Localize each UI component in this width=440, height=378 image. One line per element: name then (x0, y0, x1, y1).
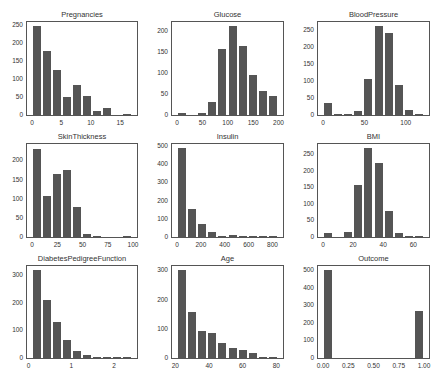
y-tick-label: 100 (1, 195, 23, 202)
histogram-bar (384, 33, 394, 115)
y-tick-label: 200 (1, 156, 23, 163)
histogram-bar (238, 350, 248, 358)
y-tick-label: 300 (146, 266, 168, 273)
histogram-bar (374, 163, 384, 237)
y-tick-label: 0 (146, 354, 168, 361)
y-tick-label: 0 (146, 111, 168, 118)
y-tick-label: 400 (292, 284, 314, 291)
y-tick-label: 100 (1, 326, 23, 333)
y-tick-label: 50 (292, 94, 314, 101)
histogram-bar (62, 170, 72, 237)
histogram-bar (72, 207, 82, 237)
histogram-bar (414, 114, 424, 115)
chart-title-glucose: Glucose (171, 10, 284, 19)
histogram-bar (394, 85, 404, 115)
histogram-bar (42, 300, 52, 358)
x-tick-label: 20 (341, 241, 365, 248)
x-tick-label: 40 (197, 362, 221, 369)
x-tick-label: 10 (79, 119, 103, 126)
x-tick-label: 200 (266, 119, 290, 126)
histogram-bar (248, 353, 258, 358)
chart-title-outcome: Outcome (317, 254, 430, 263)
plot-area-bmi (317, 143, 430, 238)
x-tick-label: 100 (121, 241, 145, 248)
x-tick-label: 100 (216, 119, 240, 126)
histogram-bar (42, 51, 52, 115)
chart-title-bmi: BMI (317, 132, 430, 141)
histogram-bar (102, 357, 112, 358)
chart-title-insulin: Insulin (171, 132, 284, 141)
x-tick-label: 0 (311, 119, 335, 126)
histogram-bar (363, 148, 373, 237)
histogram-bar (32, 149, 42, 237)
y-tick-label: 0 (1, 111, 23, 118)
histogram-bar (248, 75, 258, 115)
x-tick-label: 400 (213, 241, 237, 248)
y-tick-label: 0 (1, 354, 23, 361)
y-tick-label: 0 (1, 233, 23, 240)
histogram-bar (217, 343, 227, 358)
histogram-bar (32, 270, 42, 358)
chart-title-age: Age (171, 254, 284, 263)
histogram-bar (394, 233, 404, 237)
x-tick-label: 0 (20, 241, 44, 248)
histogram-bar (52, 70, 62, 115)
x-tick-label: 60 (401, 241, 425, 248)
histogram-bar (258, 91, 268, 115)
y-tick-label: 100 (146, 69, 168, 76)
x-tick-label: 5 (49, 119, 73, 126)
chart-title-pregnancies: Pregnancies (26, 10, 138, 19)
y-tick-label: 0 (292, 111, 314, 118)
y-tick-label: 500 (292, 266, 314, 273)
histogram-bar (323, 270, 333, 358)
plot-area-age (171, 265, 284, 359)
histogram-bar (207, 232, 217, 237)
histogram-bar (187, 209, 197, 237)
histogram-bar (384, 211, 394, 237)
histogram-bar (414, 236, 424, 237)
y-tick-label: 150 (146, 48, 168, 55)
histogram-bar (343, 114, 353, 115)
y-tick-label: 250 (292, 26, 314, 33)
y-tick-label: 200 (146, 296, 168, 303)
y-tick-label: 300 (146, 178, 168, 185)
histogram-bar (102, 108, 112, 115)
histogram-bar (228, 348, 238, 358)
x-tick-label: 80 (264, 362, 288, 369)
histogram-bar (323, 103, 333, 115)
chart-title-bloodpressure: BloodPressure (317, 10, 430, 19)
histogram-bar (177, 148, 187, 237)
y-tick-label: 200 (146, 27, 168, 34)
histogram-bar (353, 111, 363, 115)
y-tick-label: 250 (1, 21, 23, 28)
x-tick-label: 0 (165, 241, 189, 248)
x-tick-label: 1 (59, 362, 83, 369)
y-tick-label: 50 (292, 216, 314, 223)
histogram-bar (238, 236, 248, 237)
y-tick-label: 150 (292, 183, 314, 190)
histogram-bar (112, 357, 122, 358)
histogram-bar (374, 26, 384, 115)
y-tick-label: 200 (292, 167, 314, 174)
x-tick-label: 50 (190, 119, 214, 126)
histogram-bar (343, 232, 353, 237)
y-tick-label: 300 (1, 271, 23, 278)
histogram-bar (258, 236, 268, 237)
x-tick-label: 1.00 (412, 362, 436, 369)
histogram-bar (122, 114, 132, 115)
histogram-bar (217, 236, 227, 237)
x-tick-label: 15 (108, 119, 132, 126)
x-tick-label: 40 (371, 241, 395, 248)
histogram-bar (197, 113, 207, 115)
histogram-bar (92, 236, 102, 237)
y-tick-label: 500 (146, 142, 168, 149)
x-tick-label: 0.50 (362, 362, 386, 369)
histogram-bar (82, 355, 92, 358)
x-tick-label: 0 (20, 119, 44, 126)
histogram-bar (82, 234, 92, 237)
y-tick-label: 150 (1, 176, 23, 183)
y-tick-label: 400 (146, 160, 168, 167)
x-tick-label: 0 (311, 241, 335, 248)
y-tick-label: 150 (292, 60, 314, 67)
histogram-bar (248, 236, 258, 237)
